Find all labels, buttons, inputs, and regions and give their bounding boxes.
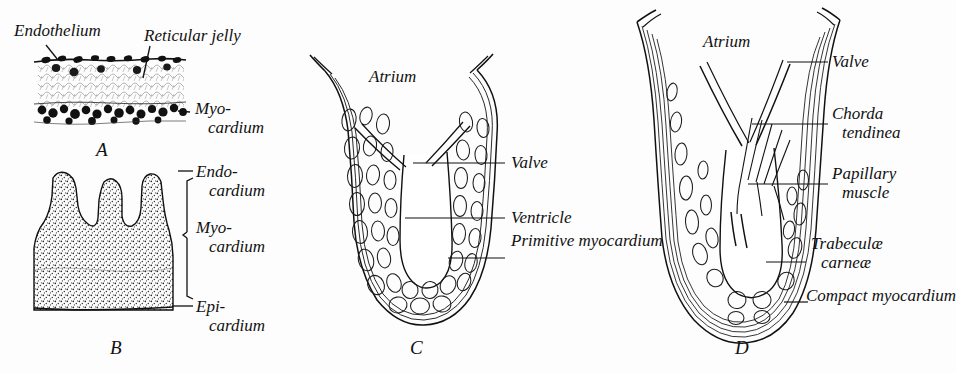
label-endocardium: Endo- cardium <box>196 162 265 200</box>
panel-letter-b: B <box>110 337 122 359</box>
panel-letter-a: A <box>96 139 108 161</box>
label-papillary-muscle: Papillary muscle <box>832 164 896 202</box>
label-epicardium: Epi- cardium <box>196 297 265 335</box>
panel-letter-d: D <box>735 337 749 359</box>
label-myocardium-b-line2: cardium <box>196 237 265 256</box>
label-endocardium-line1: Endo- <box>196 162 238 181</box>
label-valve-c: Valve <box>511 154 548 172</box>
label-atrium-c: Atrium <box>369 68 416 86</box>
label-epicardium-line2: cardium <box>196 316 265 335</box>
label-compact-myocardium-line1: Compact <box>806 286 867 305</box>
label-chorda-tendinea-line1: Chorda <box>832 104 883 123</box>
label-myocardium-a-line1: Myo- <box>195 99 231 118</box>
label-papillary-muscle-line2: muscle <box>832 183 896 202</box>
label-papillary-muscle-line1: Papillary <box>832 164 896 183</box>
panel-letter-c: C <box>410 337 423 359</box>
panel-b-artwork <box>34 171 193 310</box>
label-epicardium-line1: Epi- <box>196 297 225 316</box>
label-chorda-tendinea-line2: tendinea <box>832 123 901 142</box>
label-compact-myocardium: Compact myocardium <box>806 286 956 305</box>
label-myocardium-b: Myo- cardium <box>196 218 265 256</box>
panel-b-bracket <box>183 178 193 299</box>
label-compact-myocardium-line2: myocardium <box>872 286 956 305</box>
label-chorda-tendinea: Chorda tendinea <box>832 104 901 142</box>
label-trabeculae-carneae: Trabeculæ carneæ <box>811 234 883 272</box>
label-endothelium: Endothelium <box>14 22 101 40</box>
label-primitive-myocardium-line2: myocardium <box>579 231 663 250</box>
label-valve-d: Valve <box>832 53 869 71</box>
panel-c-artwork <box>310 54 505 325</box>
label-myocardium-a: Myo- cardium <box>195 99 264 137</box>
label-ventricle-c: Ventricle <box>511 209 571 227</box>
label-atrium-d: Atrium <box>703 33 750 51</box>
label-endocardium-line2: cardium <box>196 181 265 200</box>
label-reticular-jelly: Reticular jelly <box>144 27 241 45</box>
label-primitive-myocardium-line1: Primitive <box>511 231 574 250</box>
panel-a-artwork <box>34 45 190 125</box>
label-trabeculae-carneae-line1: Trabeculæ <box>811 234 883 253</box>
label-trabeculae-carneae-line2: carneæ <box>811 253 883 272</box>
label-myocardium-b-line1: Myo- <box>196 218 232 237</box>
label-primitive-myocardium: Primitive myocardium <box>511 231 663 250</box>
label-myocardium-a-line2: cardium <box>195 118 264 137</box>
